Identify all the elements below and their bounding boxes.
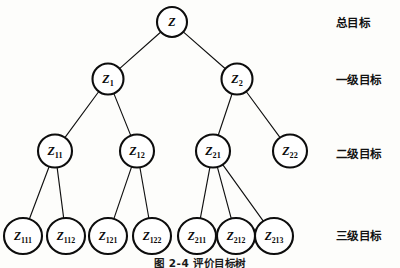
tree-node-z11[interactable]: Z11 [38, 135, 72, 168]
level-label-0: 总目标 [336, 14, 370, 30]
tree-edge [57, 167, 64, 218]
nodes-group: ZZ1Z2Z11Z12Z21Z22Z111Z112Z121Z122Z211Z21… [4, 7, 307, 254]
tree-node-z112[interactable]: Z112 [47, 218, 85, 254]
tree-edge [65, 91, 99, 137]
tree-edge [140, 167, 149, 218]
level-label-3: 三级目标 [336, 227, 382, 243]
tree-node-z1[interactable]: Z1 [93, 64, 124, 95]
node-label: Z [167, 15, 176, 29]
tree-node-z[interactable]: Z [157, 7, 187, 37]
tree-edge [120, 32, 161, 69]
tree-edge [183, 32, 225, 69]
tree-node-z212[interactable]: Z212 [217, 218, 255, 254]
edges-group [29, 32, 280, 221]
tree-node-z12[interactable]: Z12 [120, 135, 154, 168]
tree-edge [200, 167, 210, 218]
tree-node-z211[interactable]: Z211 [178, 218, 216, 254]
tree-edge [223, 165, 264, 222]
goal-tree-figure: ZZ1Z2Z11Z12Z21Z22Z111Z112Z121Z122Z211Z21… [0, 0, 400, 268]
tree-edge [29, 167, 49, 220]
tree-node-z22[interactable]: Z22 [273, 135, 307, 168]
tree-edge [246, 91, 280, 137]
figure-caption: 图 2-4 评价目标树 [0, 255, 400, 268]
tree-node-z2[interactable]: Z2 [222, 64, 253, 95]
level-label-1: 一级目标 [336, 71, 382, 87]
tree-node-z121[interactable]: Z121 [89, 218, 127, 254]
tree-node-z213[interactable]: Z213 [255, 218, 293, 254]
tree-node-z21[interactable]: Z21 [196, 135, 230, 168]
level-label-2: 二级目标 [336, 145, 382, 161]
tree-edge [114, 167, 132, 219]
tree-edge [114, 93, 131, 135]
tree-edge [217, 167, 231, 219]
tree-edge [218, 94, 232, 136]
tree-node-z111[interactable]: Z111 [4, 218, 42, 254]
tree-node-z122[interactable]: Z122 [133, 218, 171, 254]
